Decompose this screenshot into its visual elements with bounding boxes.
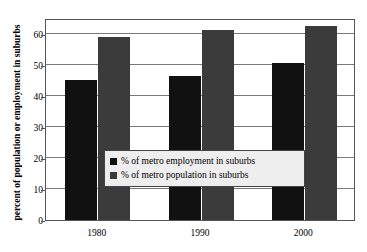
y-tick-label: 20 [21,154,43,164]
y-tick-label: 50 [21,61,43,71]
legend-swatch-icon [110,158,117,165]
bar-2000-series-0 [272,63,304,220]
bar-1980-series-0 [65,80,97,220]
legend-swatch-icon [110,172,117,179]
y-tick-label: 60 [21,30,43,40]
y-tick-mark [41,66,45,67]
bar-1990-series-0 [169,76,201,221]
legend-label: % of metro population in suburbs [121,170,248,180]
x-tick-label-2000: 2000 [263,228,343,238]
plot-area [45,19,355,221]
y-tick-mark [41,97,45,98]
y-tick-label: 40 [21,92,43,102]
x-tick-label-1980: 1980 [57,228,137,238]
x-tick-label-1990: 1990 [160,228,240,238]
y-tick-label: 0 [21,216,43,226]
y-tick-label: 30 [21,123,43,133]
y-tick-mark [41,128,45,129]
legend-label: % of metro employment in suburbs [121,156,255,166]
legend-item-1[interactable]: % of metro population in suburbs [110,168,299,182]
legend-item-0[interactable]: % of metro employment in suburbs [110,154,299,168]
chart-legend: % of metro employment in suburbs% of met… [104,150,305,187]
y-tick-mark [41,221,45,222]
bar-1990-series-1 [202,30,234,220]
y-tick-label: 10 [21,185,43,195]
bar-1980-series-1 [98,37,130,220]
bar-chart-figure: percent of population or employment in s… [0,0,367,252]
y-axis-tick-labels: 0102030405060 [14,0,43,252]
bar-2000-series-1 [305,26,337,220]
y-tick-mark [41,35,45,36]
y-tick-mark [41,190,45,191]
y-tick-mark [41,159,45,160]
